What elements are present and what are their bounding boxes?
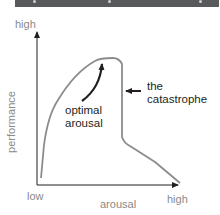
annotation-line: optimal	[65, 104, 103, 117]
x-low-label: low	[27, 191, 44, 202]
x-high-label: high	[167, 194, 188, 205]
y-high-label: high	[15, 19, 36, 30]
x-axis-label: arousal	[100, 199, 136, 210]
y-axis-label: performance	[5, 91, 17, 153]
performance-curve	[41, 58, 180, 183]
optimal-arrow	[82, 64, 102, 101]
annotation-line: the	[147, 80, 207, 93]
chart-canvas	[0, 0, 220, 215]
catastrophe-annotation: the catastrophe	[147, 80, 207, 106]
annotation-line: catastrophe	[147, 93, 207, 106]
annotation-line: arousal	[65, 117, 103, 130]
optimal-arousal-annotation: optimal arousal	[65, 104, 103, 130]
